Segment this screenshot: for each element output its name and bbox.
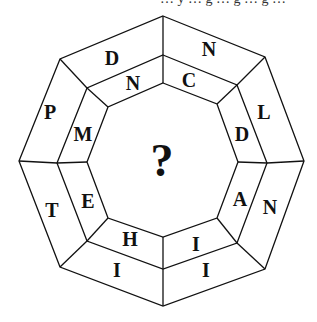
outer-cell-right-lower: N xyxy=(263,196,278,218)
octagon-puzzle-diagram: N L N I I T P D C D A I H E M N ? xyxy=(0,0,317,322)
inner-cell-left-upper: M xyxy=(74,123,93,145)
outer-cell-top-right: N xyxy=(202,38,217,60)
inner-cell-left-lower: E xyxy=(81,190,94,212)
inner-cell-bottom-left: H xyxy=(122,228,138,250)
center-question-mark: ? xyxy=(151,135,174,186)
outer-cell-bottom-right: I xyxy=(202,259,210,281)
inner-cell-top-left: N xyxy=(126,72,141,94)
outer-cell-bottom-left: I xyxy=(113,259,121,281)
inner-cell-top-right: C xyxy=(182,69,196,91)
inner-cell-bottom-right: I xyxy=(192,233,200,255)
outer-cell-right-upper: L xyxy=(257,101,270,123)
outer-cell-top-left: D xyxy=(105,47,119,69)
inner-cell-right-lower: A xyxy=(233,188,248,210)
outer-cell-left-lower: T xyxy=(45,199,59,221)
inner-cell-right-upper: D xyxy=(235,123,249,145)
outer-cell-left-upper: P xyxy=(44,101,56,123)
